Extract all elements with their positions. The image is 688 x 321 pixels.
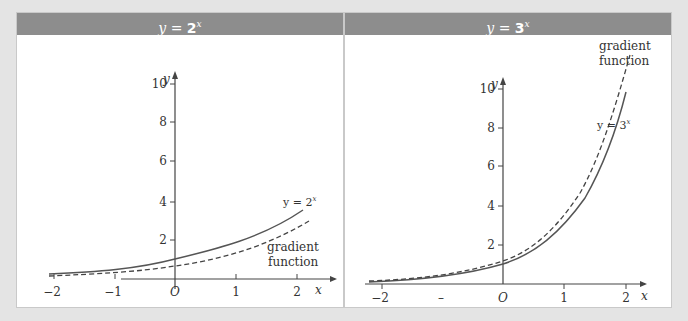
gradient-label-line1: gradient [267, 240, 319, 254]
y-axis-arrow-icon [172, 71, 178, 79]
origin-label: O [498, 291, 508, 305]
y-tick-label: 2 [487, 238, 495, 252]
gradient-label-line2: function [599, 54, 650, 68]
panel-y-2x: y = 2x 10 8 6 4 2 −2 −1 O 1 2 x y [16, 12, 344, 308]
origin-label: O [170, 285, 180, 299]
chart-y-2x: 10 8 6 4 2 −2 −1 O 1 2 x y y = 2x gradie… [17, 13, 345, 309]
x-tick-label: −2 [43, 285, 61, 299]
gradient-label-line2: function [268, 255, 319, 269]
y-axis-label: y [490, 77, 498, 91]
curve-label-y-2x: y = 2x [282, 195, 316, 209]
x-axis-label: x [641, 289, 648, 303]
y-tick-label: 6 [159, 154, 167, 168]
y-axis-label: y [162, 72, 170, 86]
y-tick-label: 8 [159, 115, 167, 129]
x-tick-label: 2 [622, 291, 630, 305]
chart-y-3x: 10 8 6 4 2 −2 – O 1 2 x y y = 3x gradien… [345, 13, 673, 309]
gradient-label-line1: gradient [599, 39, 651, 53]
x-tick-label: −1 [104, 285, 122, 299]
y-tick-label: 4 [159, 195, 167, 209]
y-axis-arrow-icon [500, 77, 506, 85]
x-tick-label: 1 [232, 285, 240, 299]
x-axis-arrow-icon [330, 276, 337, 282]
x-tick-label: – [438, 291, 444, 305]
y-tick-label: 2 [159, 233, 167, 247]
y-tick-label: 4 [487, 199, 495, 213]
x-tick-label: 2 [293, 285, 301, 299]
x-tick-label: −2 [371, 291, 389, 305]
x-axis-label: x [315, 283, 322, 297]
curve-y-2x [49, 210, 303, 274]
y-tick-label: 8 [487, 121, 495, 135]
x-tick-label: 1 [560, 291, 568, 305]
curve-y-3x [369, 92, 626, 282]
panel-y-3x: y = 3x 10 8 6 4 2 −2 – O 1 2 x y [344, 12, 672, 308]
y-tick-label: 6 [487, 159, 495, 173]
x-axis-arrow-icon [640, 281, 647, 287]
curve-label-y-3x: y = 3x [596, 118, 630, 132]
